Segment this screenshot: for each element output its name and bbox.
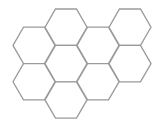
- hexagon-grid: [0, 0, 163, 128]
